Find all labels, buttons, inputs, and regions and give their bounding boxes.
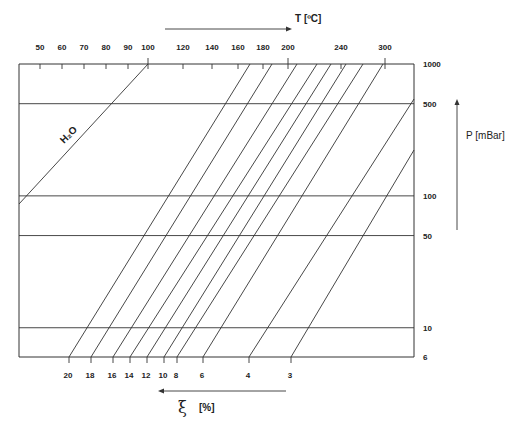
- top-tick-label-180: 180: [256, 43, 270, 52]
- vapor-pressure-chart: 5060708090100120140160180200240300 10005…: [0, 0, 524, 438]
- series-line-xi-20: [69, 64, 250, 357]
- series-line-h2o: [19, 64, 148, 204]
- bottom-axis-ticks: 2018161412108643: [64, 357, 293, 380]
- top-axis-arrow-head: [286, 27, 292, 32]
- bottom-axis-arrow-head: [158, 389, 164, 394]
- top-axis-ticks: 5060708090100120140160180200240300: [36, 43, 393, 69]
- bottom-tick-label-8: 8: [174, 371, 179, 380]
- top-tick-label-50: 50: [36, 43, 45, 52]
- bottom-tick-label-12: 12: [142, 371, 151, 380]
- bottom-tick-label-16: 16: [108, 371, 117, 380]
- right-tick-label-6: 6: [423, 353, 428, 362]
- right-tick-label-50: 50: [423, 232, 432, 241]
- top-tick-label-300: 300: [378, 43, 392, 52]
- top-tick-label-160: 160: [231, 43, 245, 52]
- right-tick-label-500: 500: [423, 100, 437, 109]
- series-line-xi-3: [291, 150, 414, 357]
- top-tick-label-140: 140: [205, 43, 219, 52]
- series-lines: [19, 64, 414, 357]
- plot-frame: [19, 64, 414, 357]
- bottom-tick-label-3: 3: [288, 371, 293, 380]
- bottom-tick-label-4: 4: [246, 371, 251, 380]
- right-axis-arrow-head: [455, 99, 460, 105]
- right-tick-label-1000: 1000: [423, 60, 441, 69]
- top-tick-label-200: 200: [281, 43, 295, 52]
- right-axis-ticks: 100050010050106: [423, 60, 441, 362]
- top-tick-label-90: 90: [124, 43, 133, 52]
- top-tick-label-100: 100: [141, 43, 155, 52]
- right-tick-label-10: 10: [423, 324, 432, 333]
- series-line-xi-6: [203, 64, 383, 357]
- top-tick-label-70: 70: [80, 43, 89, 52]
- top-tick-label-240: 240: [334, 43, 348, 52]
- top-tick-label-80: 80: [102, 43, 111, 52]
- top-axis-title: T [ºC]: [295, 13, 321, 24]
- bottom-tick-label-18: 18: [86, 371, 95, 380]
- bottom-tick-label-20: 20: [64, 371, 73, 380]
- right-tick-label-100: 100: [423, 192, 437, 201]
- right-axis-title: P [mBar]: [466, 130, 505, 141]
- top-tick-label-60: 60: [58, 43, 67, 52]
- bottom-tick-label-10: 10: [159, 371, 168, 380]
- series-line-xi-4: [249, 99, 414, 357]
- series-line-xi-12: [147, 64, 331, 357]
- bottom-tick-label-14: 14: [125, 371, 134, 380]
- bottom-tick-label-6: 6: [200, 371, 205, 380]
- bottom-axis-symbol: ξ: [178, 398, 187, 417]
- bottom-axis-unit: [%]: [199, 402, 215, 413]
- series-line-xi-10: [164, 64, 346, 357]
- top-tick-label-120: 120: [176, 43, 190, 52]
- series-line-xi-18: [91, 64, 272, 357]
- series-line-xi-14: [130, 64, 317, 357]
